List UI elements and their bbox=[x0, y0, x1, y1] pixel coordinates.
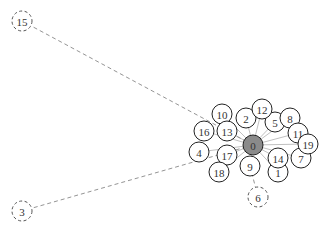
node-16: 16 bbox=[194, 121, 214, 141]
node-label: 5 bbox=[272, 117, 278, 129]
node-18: 18 bbox=[209, 162, 229, 182]
node-6: 6 bbox=[248, 187, 268, 207]
node-label: 17 bbox=[222, 150, 234, 162]
node-label: 14 bbox=[273, 153, 285, 165]
node-label: 13 bbox=[222, 126, 234, 138]
node-label: 12 bbox=[257, 104, 268, 116]
node-label: 2 bbox=[243, 113, 249, 125]
node-4: 4 bbox=[189, 142, 209, 162]
node-label: 10 bbox=[217, 109, 229, 121]
node-label: 7 bbox=[298, 153, 304, 165]
node-label: 9 bbox=[247, 161, 253, 173]
node-0: 0 bbox=[243, 135, 263, 155]
node-label: 8 bbox=[287, 113, 293, 125]
node-19: 19 bbox=[298, 134, 318, 154]
node-label: 18 bbox=[214, 167, 226, 179]
node-14: 14 bbox=[268, 148, 288, 168]
node-label: 19 bbox=[303, 139, 315, 151]
nodes-layer: 012345678910111213141516171819 bbox=[12, 11, 318, 221]
node-15: 15 bbox=[12, 11, 32, 31]
node-label: 3 bbox=[19, 206, 25, 218]
node-label: 15 bbox=[17, 16, 29, 28]
node-label: 0 bbox=[250, 140, 256, 152]
node-9: 9 bbox=[240, 156, 260, 176]
node-label: 16 bbox=[199, 126, 211, 138]
node-3: 3 bbox=[12, 201, 32, 221]
node-13: 13 bbox=[217, 121, 237, 141]
node-label: 6 bbox=[255, 192, 261, 204]
node-12: 12 bbox=[252, 99, 272, 119]
node-label: 4 bbox=[196, 147, 202, 159]
network-graph: 012345678910111213141516171819 bbox=[0, 0, 331, 237]
